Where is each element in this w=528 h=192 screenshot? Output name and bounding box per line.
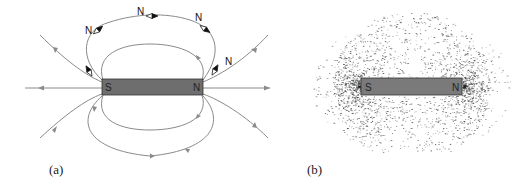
magnet-north-pole-a: N xyxy=(193,82,200,93)
magnet-south-pole-a: S xyxy=(105,82,112,93)
compass-label-top: N xyxy=(137,6,144,17)
bar-magnet-b xyxy=(361,78,462,95)
field-lines-diagram: N N N N S N xyxy=(0,0,270,192)
caption-b: (b) xyxy=(307,162,322,178)
panel-a-field-lines: N N N N S N (a) xyxy=(0,0,270,192)
magnet-south-pole-b: S xyxy=(365,82,372,93)
caption-a: (a) xyxy=(49,162,63,178)
compass-label-upper-right: N xyxy=(195,12,202,23)
compass-label-upper-left: N xyxy=(85,25,92,36)
magnet-north-pole-b: N xyxy=(452,82,459,93)
compass-label-right: N xyxy=(225,56,232,67)
bar-magnet-a xyxy=(102,79,203,95)
panel-b-iron-filings: S N (b) xyxy=(270,0,528,192)
